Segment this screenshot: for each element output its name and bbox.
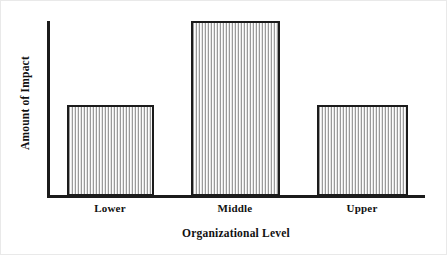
x-tick-label-middle: Middle [175,202,295,214]
x-tick-label-lower: Lower [50,202,170,214]
bar-upper [317,105,408,196]
bar-chart-figure: Lower Middle Upper Organizational Level … [0,0,447,255]
x-axis-title: Organizational Level [47,227,425,239]
bar-lower [67,105,154,196]
y-axis-title: Amount of Impact [19,23,31,183]
x-tick-label-upper: Upper [302,202,422,214]
bar-middle [191,21,280,196]
y-axis-line [47,21,50,198]
plot-area: Lower Middle Upper Organizational Level … [1,1,447,255]
